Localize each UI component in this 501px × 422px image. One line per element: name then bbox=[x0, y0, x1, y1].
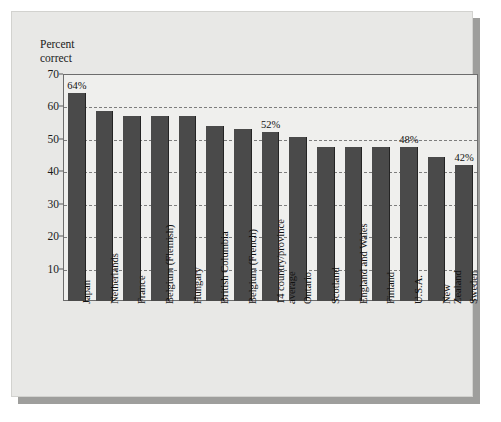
y-tick-label-70: 70 bbox=[37, 68, 59, 80]
x-axis-label: U.S.A. bbox=[413, 275, 424, 304]
y-axis-title: Percent correct bbox=[40, 38, 74, 65]
bar-value-label: 48% bbox=[399, 134, 418, 145]
x-axis-category-labels: JapanNetherlandsFranceBelgium (Flemish)H… bbox=[63, 304, 478, 404]
x-axis-label: Japan bbox=[81, 280, 92, 304]
x-axis-label: Belgium (Flemish) bbox=[164, 224, 175, 304]
x-axis-label: Netherlands bbox=[109, 253, 120, 304]
y-tick-label-50: 50 bbox=[37, 133, 59, 145]
x-axis-label: Finland bbox=[385, 272, 396, 304]
bar-value-label: 42% bbox=[455, 152, 474, 163]
bar-series: 64%52%48%42% bbox=[63, 74, 478, 301]
bar-value-label: 64% bbox=[67, 80, 86, 91]
x-axis-label: New Zealand bbox=[441, 267, 463, 305]
bar-value-label: 52% bbox=[261, 119, 280, 130]
x-axis-label: 14 country/province average bbox=[275, 219, 297, 304]
y-tick-label-10: 10 bbox=[37, 263, 59, 275]
y-tick-label-30: 30 bbox=[37, 198, 59, 210]
bar bbox=[68, 93, 86, 301]
x-axis-label: British Columbia bbox=[219, 231, 230, 304]
y-tick-label-60: 60 bbox=[37, 100, 59, 112]
y-tick-label-20: 20 bbox=[37, 230, 59, 242]
x-axis-label: Scotland bbox=[330, 267, 341, 304]
x-axis-label: Sweden bbox=[468, 271, 479, 304]
x-axis-label: England and Wales bbox=[358, 223, 369, 304]
y-axis-tick-labels: 10203040506070 bbox=[35, 74, 59, 301]
chart-figure-plate: Percent correct 10203040506070 64%52%48%… bbox=[11, 11, 473, 397]
x-axis-label: Ontario bbox=[302, 272, 313, 304]
x-axis-label: France bbox=[136, 275, 147, 304]
bar bbox=[123, 116, 141, 301]
y-tick-label-40: 40 bbox=[37, 165, 59, 177]
x-axis-label: Hungary bbox=[192, 267, 203, 304]
x-axis-label: Belgium (French) bbox=[247, 229, 258, 304]
